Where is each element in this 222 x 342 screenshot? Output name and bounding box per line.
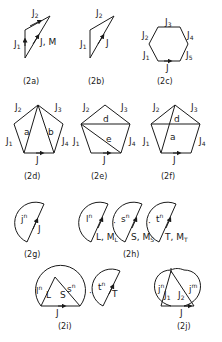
caption-2c: (2c) — [157, 77, 173, 86]
label-j-inner-2g: jn — [20, 212, 28, 224]
label-j1-2c: J1 — [142, 50, 150, 61]
label-d-2f: d — [174, 114, 180, 124]
label-jm-2j: jm — [188, 282, 198, 294]
label-J1-2j: J1 — [163, 290, 171, 301]
label-L-2i: L — [46, 290, 51, 300]
label-j3-2e: J3 — [120, 102, 128, 113]
diagram-2c: J1 J2 J3 J4 J5 J (2c) — [141, 17, 194, 86]
label-e-2e: e — [106, 134, 112, 144]
caption-2i: (2i) — [58, 322, 72, 331]
dot-2i: · — [89, 288, 92, 298]
label-j2-2a: J2 — [31, 8, 39, 19]
label-b-2d: b — [48, 127, 54, 137]
label-a-2d: a — [24, 127, 30, 137]
label-j5-2c: J5 — [185, 50, 193, 61]
diagram-2h: ln L, ML · sn S, MS · tn T, MT (2h) — [79, 202, 188, 259]
diagram-2d: J1 J2 J3 J4 J a b (2d) — [5, 102, 69, 181]
label-j-2e: J — [102, 155, 106, 165]
label-j3-2c: J3 — [164, 17, 172, 28]
label-j3-2f: J3 — [190, 102, 198, 113]
label-d-2e: d — [103, 114, 109, 124]
label-j-2d: J — [35, 155, 39, 165]
arrow-s-2h — [132, 219, 136, 228]
label-j-2a: J, M — [39, 37, 56, 47]
diagram-2a: J1 J2 J, M (2a) — [13, 8, 56, 86]
label-j4-2c: J4 — [186, 30, 194, 41]
hexagon-2c — [149, 27, 188, 61]
dot-2-2h: · — [148, 218, 151, 228]
label-t-2i: tn — [98, 280, 106, 292]
label-j4-2d: J4 — [61, 136, 69, 147]
label-j-2c: J — [165, 63, 169, 73]
label-j-2b: J — [105, 38, 109, 48]
label-j2-2e: J2 — [82, 102, 90, 113]
label-TM-2h: T, MT — [164, 232, 188, 243]
label-j4-2f: J4 — [198, 136, 206, 147]
caption-2f: (2f) — [161, 172, 175, 181]
diagram-2g: jn J (2g) — [15, 202, 44, 259]
arrow-j-2a — [33, 36, 38, 44]
diagram-2f: J1 J2 J3 J4 J d a (2f) — [142, 102, 206, 181]
arrow-j-2b — [98, 36, 103, 44]
chord-e-2e — [81, 124, 121, 153]
caption-2h: (2h) — [123, 250, 139, 259]
caption-2j: (2j) — [177, 322, 191, 331]
label-j3-2d: J3 — [54, 102, 62, 113]
label-j2-2b: J2 — [95, 8, 103, 19]
diagram-2i: ln L S sn J · tn T (2i) — [35, 265, 120, 331]
label-T-2i: T — [111, 289, 118, 299]
label-j1-2e: J1 — [72, 136, 80, 147]
label-j-2g: J — [37, 224, 41, 234]
caption-2e: (2e) — [91, 172, 107, 181]
label-t-2h: tn — [156, 212, 164, 224]
figure-canvas: J1 J2 J, M (2a) J1 J2 J (2b) J1 J2 J3 J4… — [0, 0, 222, 342]
label-j4-2e: J4 — [128, 136, 136, 147]
arrow-2g — [33, 220, 37, 229]
label-a-2f: a — [170, 132, 176, 142]
arrow-l-2h — [98, 219, 102, 228]
label-j1-2a: J1 — [13, 39, 21, 50]
caption-2b: (2b) — [88, 77, 104, 86]
caption-2a: (2a) — [23, 77, 39, 86]
chord-a-2f — [161, 105, 175, 153]
label-J2-2j: J2 — [177, 290, 185, 301]
diagram-2e: J1 J2 J3 J4 J d e (2e) — [72, 102, 136, 181]
diagram-2j: jn J1 J2 jm J (2j) — [154, 268, 200, 331]
diagram-2b: J1 J2 J (2b) — [79, 8, 114, 86]
label-j-2i: J — [55, 308, 59, 318]
semicircle-t-2i — [92, 269, 120, 306]
semicircle-2g — [15, 202, 44, 242]
label-j1-2f: J1 — [142, 136, 150, 147]
caption-2d: (2d) — [24, 172, 40, 181]
label-j2-2f: J2 — [152, 102, 160, 113]
label-s-2i: sn — [67, 282, 76, 294]
arrow-t-2h — [166, 219, 170, 228]
label-s-2h: sn — [121, 212, 130, 224]
label-j-2f: J — [172, 155, 176, 165]
label-l-2i: ln — [36, 284, 43, 296]
label-j1-2d: J1 — [5, 136, 13, 147]
label-SM-2h: S, MS — [131, 232, 154, 243]
arrow-j2-2a — [30, 21, 40, 26]
caption-2g: (2g) — [24, 250, 40, 259]
label-j2-2c: J2 — [141, 30, 149, 41]
label-j1-2b: J1 — [79, 39, 87, 50]
label-j2-2d: J2 — [14, 102, 22, 113]
label-S-2i: S — [60, 290, 66, 300]
label-l-2h: ln — [86, 212, 93, 224]
label-j-2j: J — [179, 308, 183, 318]
